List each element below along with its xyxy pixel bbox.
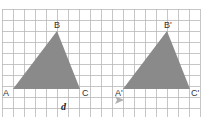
vector-label-d: d [61, 101, 67, 112]
translation-diagram: A B C A' B' C' d [0, 0, 201, 117]
vertex-label-c-prime: C' [191, 88, 199, 98]
vertex-label-b-prime: B' [164, 20, 172, 30]
vertex-label-a: A [3, 88, 9, 98]
vertex-label-c: C [82, 88, 89, 98]
vertex-label-b: B [54, 20, 60, 30]
vertex-label-a-prime: A' [115, 88, 123, 98]
